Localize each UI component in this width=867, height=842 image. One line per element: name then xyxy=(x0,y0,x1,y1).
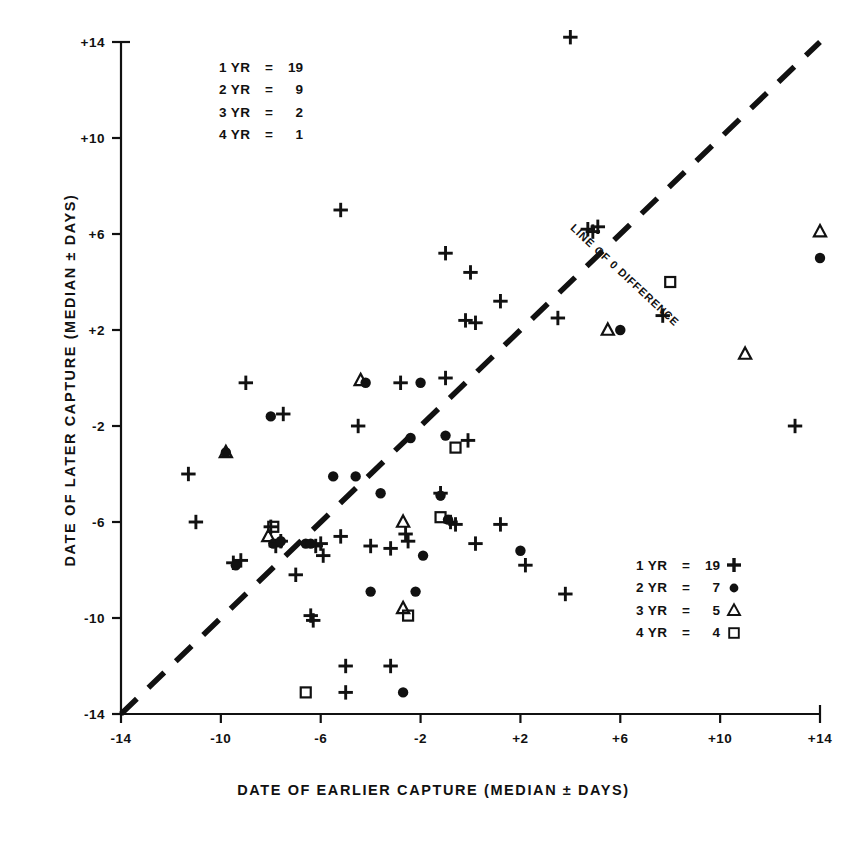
data-point-plus xyxy=(393,376,407,390)
y-tick-label: -10 xyxy=(43,611,105,626)
data-point-plus xyxy=(333,529,347,543)
x-tick-label: -14 xyxy=(110,731,131,746)
data-point-plus xyxy=(333,203,347,217)
data-point-plus xyxy=(383,541,397,555)
legend-row: 2 YR=7 xyxy=(636,577,748,600)
legend-series-name: 2 YR xyxy=(636,580,678,595)
data-point-plus xyxy=(338,659,352,673)
y-tick-label: +10 xyxy=(43,131,105,146)
y-tick-label: +2 xyxy=(43,323,105,338)
data-point-plus xyxy=(398,527,412,541)
x-axis-title: DATE OF EARLIER CAPTURE (MEDIAN ± DAYS) xyxy=(0,782,867,798)
y-tick-label: -6 xyxy=(43,515,105,530)
data-point-plus xyxy=(351,419,365,433)
data-point-circle xyxy=(440,430,450,440)
data-point-circle xyxy=(328,471,338,481)
data-point-plus xyxy=(468,536,482,550)
data-point-plus xyxy=(468,316,482,330)
legend-series-count: 7 xyxy=(694,580,720,595)
y-tick-label: -2 xyxy=(43,419,105,434)
data-point-circle xyxy=(418,550,428,560)
x-tick-label: +14 xyxy=(808,731,832,746)
legend-series-name: 3 YR xyxy=(636,603,678,618)
legend-series-count: 1 xyxy=(277,127,303,142)
data-point-triangle xyxy=(397,515,409,526)
y-tick-label: +14 xyxy=(43,35,105,50)
data-point-square xyxy=(451,443,461,453)
data-point-circle xyxy=(515,546,525,556)
scatter-plot-canvas xyxy=(0,0,867,842)
data-point-circle xyxy=(276,536,286,546)
data-point-plus xyxy=(493,517,507,531)
legend-equals-sign: = xyxy=(678,580,694,595)
legend-series-name: 1 YR xyxy=(219,60,261,75)
data-point-square xyxy=(665,277,675,287)
data-point-circle xyxy=(405,433,415,443)
y-tick-label: +6 xyxy=(43,227,105,242)
data-point-plus xyxy=(458,313,472,327)
legend-series-count: 2 xyxy=(277,105,303,120)
data-point-plus xyxy=(518,558,532,572)
legend-equals-sign: = xyxy=(678,558,694,573)
data-point-plus xyxy=(461,433,475,447)
legend-series-count: 5 xyxy=(694,603,720,618)
data-point-circle xyxy=(365,586,375,596)
data-point-square xyxy=(301,687,311,697)
data-point-plus xyxy=(338,685,352,699)
legend-row: 3 YR=2 xyxy=(219,101,331,124)
legend-series-name: 3 YR xyxy=(219,105,261,120)
triangle-marker xyxy=(720,602,748,618)
x-tick-label: -6 xyxy=(314,731,327,746)
data-point-plus xyxy=(563,30,577,44)
data-point-circle xyxy=(435,490,445,500)
chart-figure: DATE OF LATER CAPTURE (MEDIAN ± DAYS) DA… xyxy=(0,0,867,842)
legend-equals-sign: = xyxy=(261,127,277,142)
legend-series-name: 4 YR xyxy=(636,625,678,640)
data-point-circle xyxy=(375,488,385,498)
data-point-plus xyxy=(316,548,330,562)
legend-series-name: 2 YR xyxy=(219,82,261,97)
legend-row: 1 YR=19 xyxy=(219,56,331,79)
x-tick-label: -2 xyxy=(414,731,427,746)
data-point-circle xyxy=(306,538,316,548)
data-point-triangle xyxy=(814,225,826,236)
plus-marker xyxy=(720,557,748,573)
data-point-plus xyxy=(493,294,507,308)
legend-equals-sign: = xyxy=(261,60,277,75)
data-point-plus xyxy=(289,568,303,582)
data-point-circle xyxy=(415,378,425,388)
y-axis-title: DATE OF LATER CAPTURE (MEDIAN ± DAYS) xyxy=(62,60,78,700)
data-point-plus xyxy=(551,311,565,325)
x-tick-label: +6 xyxy=(612,731,628,746)
data-point-circle xyxy=(398,687,408,697)
data-point-circle xyxy=(615,325,625,335)
legend-equals-sign: = xyxy=(678,625,694,640)
legend-row: 3 YR=5 xyxy=(636,599,748,622)
legend-equals-sign: = xyxy=(261,105,277,120)
circle-marker xyxy=(720,580,748,596)
legend-series-name: 1 YR xyxy=(636,558,678,573)
x-tick-label: +10 xyxy=(708,731,732,746)
data-point-circle xyxy=(231,560,241,570)
legend-series-count: 4 xyxy=(694,625,720,640)
legend-equals-sign: = xyxy=(678,603,694,618)
data-point-triangle xyxy=(739,347,751,358)
legend-row: 2 YR=9 xyxy=(219,79,331,102)
data-point-plus xyxy=(276,407,290,421)
x-tick-label: +2 xyxy=(512,731,528,746)
x-tick-label: -10 xyxy=(210,731,231,746)
data-point-plus xyxy=(189,515,203,529)
data-point-plus xyxy=(438,371,452,385)
data-point-plus xyxy=(438,246,452,260)
legend-bottom-right: 1 YR=192 YR=73 YR=54 YR=4 xyxy=(636,554,748,644)
legend-row: 4 YR=1 xyxy=(219,124,331,147)
data-point-plus xyxy=(383,659,397,673)
data-point-plus xyxy=(558,587,572,601)
data-point-plus xyxy=(239,376,253,390)
data-point-plus xyxy=(363,539,377,553)
data-point-plus xyxy=(463,265,477,279)
legend-series-count: 19 xyxy=(277,60,303,75)
legend-series-name: 4 YR xyxy=(219,127,261,142)
legend-series-count: 19 xyxy=(694,558,720,573)
legend-row: 4 YR=4 xyxy=(636,622,748,645)
